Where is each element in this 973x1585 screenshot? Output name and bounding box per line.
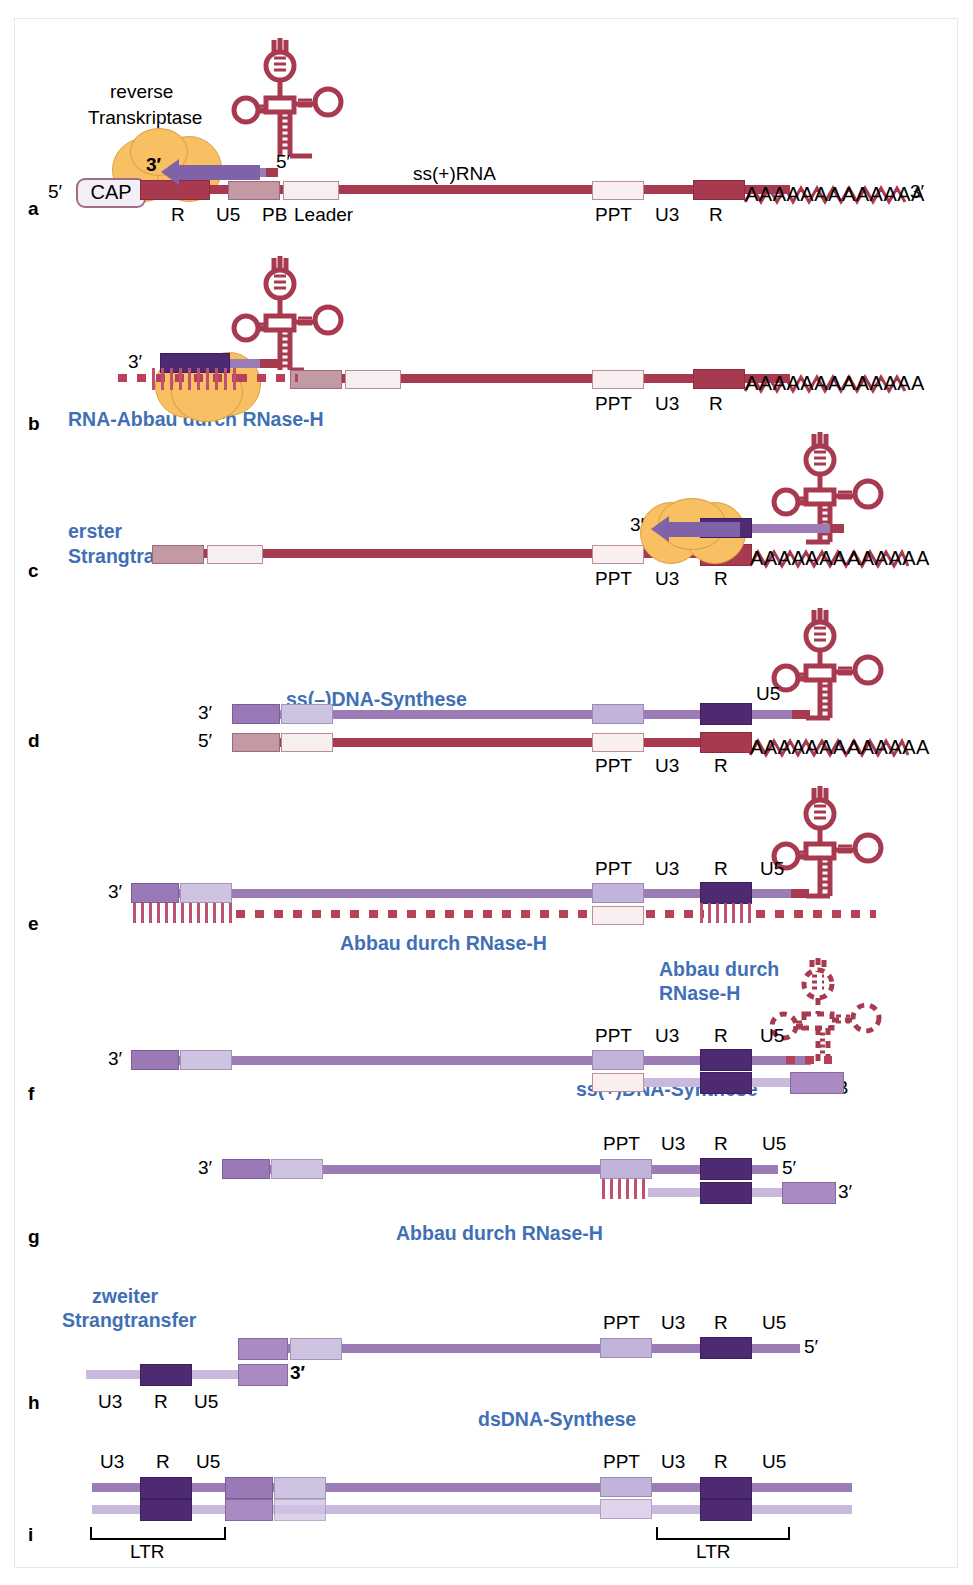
segment-U5-dna-f (180, 1050, 232, 1070)
segment-R-rna-right-a (693, 180, 745, 200)
label-U5-left-i: U5 (196, 1452, 220, 1471)
label-R-right-a: R (709, 205, 723, 224)
panel-letter-b: b (28, 413, 40, 435)
three-prime-left-g: 3′ (198, 1158, 212, 1177)
annotation-h-line1: zweiter (92, 1285, 158, 1307)
segment-R-rna-d (700, 732, 752, 753)
rna-link-d (792, 710, 810, 719)
segment-PPT-rna-f (592, 1073, 644, 1092)
label-U3-f: U3 (655, 1026, 679, 1045)
segment-PB-dna-plus-i (225, 1499, 273, 1521)
label-U3-h: U3 (98, 1392, 122, 1411)
segment-R-dna-e (700, 882, 752, 904)
synthesis-arrow-a (178, 165, 260, 180)
segment-U5-dna-e (180, 883, 232, 903)
segment-PPT-rna-c (592, 545, 644, 564)
ltr-bracket-left (90, 1527, 226, 1540)
label-PPT-e: PPT (595, 859, 632, 878)
segment-PB-dna-plus-g (782, 1182, 836, 1204)
label-U3-b: U3 (655, 394, 679, 413)
annotation-h-line2: Strangtransfer (62, 1309, 196, 1331)
label-U5-right-i: U5 (762, 1452, 786, 1471)
label-U3-left-i: U3 (100, 1452, 124, 1471)
label-PPT-d: PPT (595, 756, 632, 775)
three-prime-c: 3′ (630, 515, 644, 534)
annotation-c-line1: erster (68, 520, 122, 542)
panel-letter-c: c (28, 560, 39, 582)
label-U3-a: U3 (655, 205, 679, 224)
segment-R-dna-d (700, 703, 752, 725)
three-prime-f: 3′ (108, 1049, 122, 1068)
enzyme-label-line1: reverse (110, 82, 173, 101)
label-U5-a: U5 (216, 205, 240, 224)
label-PPT-c: PPT (595, 569, 632, 588)
segment-PB-dna-e (131, 883, 179, 903)
polyA-tail-d: AAAAAAAAAAAAA (750, 739, 908, 757)
cap-structure-a: CAP (76, 178, 146, 208)
rna-degradation-ticks-g (602, 1179, 648, 1199)
five-prime-trna-a: 5′ (276, 152, 290, 171)
label-U5-g: U5 (762, 1134, 786, 1153)
segment-R-dna-plus-g (700, 1182, 752, 1204)
label-U3-e: U3 (655, 859, 679, 878)
segment-Leader-rna-a (283, 181, 339, 200)
segment-PB-dna-i (225, 1477, 273, 1499)
segment-PB-dna-plus-h (238, 1364, 288, 1386)
label-R-g: R (714, 1134, 728, 1153)
panel-letter-e: e (28, 913, 39, 935)
annotation-f-line2: RNase-H (659, 982, 740, 1004)
segment-PB-rna-d (232, 733, 280, 752)
annotation-e: Abbau durch RNase-H (340, 932, 547, 954)
segment-PPT-rna-a (592, 181, 644, 200)
label-PPT-i: PPT (603, 1452, 640, 1471)
five-prime-right-h: 5′ (804, 1337, 818, 1356)
segment-U5-dna-g (271, 1159, 323, 1179)
label-R-h: R (154, 1392, 168, 1411)
segment-R-dna-plus-h (140, 1364, 192, 1386)
five-prime-left-a: 5′ (48, 182, 62, 201)
polyA-text-a: AAAAAAAAAAAAA (745, 183, 925, 206)
segment-PPT-dna-plus-i (600, 1499, 652, 1519)
polyA-tail-a: AAAAAAAAAAAAA (745, 186, 905, 204)
label-PPT-f: PPT (595, 1026, 632, 1045)
polyA-text-b: AAAAAAAAAAAAA (745, 372, 925, 395)
segment-PB-dna-f (131, 1050, 179, 1070)
polyA-text-c: AAAAAAAAAAAAA (750, 547, 930, 570)
panel-letter-i: i (28, 1524, 33, 1546)
three-prime-right-g: 3′ (838, 1182, 852, 1201)
annotation-f-line1: Abbau durch (659, 958, 779, 980)
segment-U5-dna-i (274, 1477, 326, 1499)
five-prime-d: 5′ (198, 731, 212, 750)
segment-R-dna-plus-left-i (140, 1499, 192, 1521)
label-R-e: R (714, 859, 728, 878)
label-R-b: R (709, 394, 723, 413)
rna-degraded-e3 (756, 910, 876, 918)
three-prime-b: 3′ (128, 352, 142, 371)
rna-degraded-b2 (238, 374, 298, 382)
label-Leader-a: Leader (294, 205, 353, 224)
label-PB-a: PB (262, 205, 287, 224)
label-R-right-label-i: R (714, 1452, 728, 1471)
rna-degradation-ticks-e (133, 903, 233, 923)
three-prime-primer-a: 3′ (146, 155, 161, 174)
label-R-a: R (171, 205, 185, 224)
panel-letter-f: f (28, 1083, 34, 1105)
rna-link-e (791, 889, 809, 898)
label-U3-g: U3 (661, 1134, 685, 1153)
label-R-f: R (714, 1026, 728, 1045)
label-U5-right-e: U5 (760, 859, 784, 878)
segment-U5-dna-d (281, 704, 333, 724)
segment-PPT-rna-b (592, 370, 644, 389)
segment-R-dna-left-i (140, 1477, 192, 1499)
segment-R-rna-right-b (693, 369, 745, 389)
rna-link-b (258, 359, 280, 368)
enzyme-label-line2: Transkriptase (88, 108, 202, 127)
label-U5-right-h: U5 (762, 1313, 786, 1332)
label-U5-h: U5 (194, 1392, 218, 1411)
label-U3-right-h: U3 (661, 1313, 685, 1332)
label-U5-f: U5 (760, 1026, 784, 1045)
panel-letter-d: d (28, 730, 40, 752)
segment-R-dna-g (700, 1158, 752, 1180)
rna-degraded-f (786, 1056, 832, 1064)
segment-Leader-rna-b (345, 370, 401, 389)
